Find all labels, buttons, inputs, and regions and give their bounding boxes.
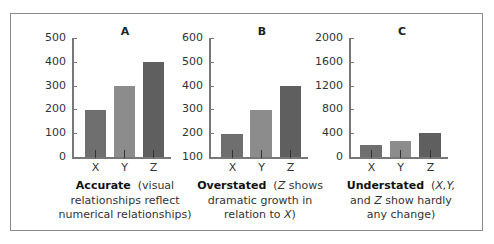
chart-caption: Understated (X,Y, and Z show hardly any … [326,179,476,223]
y-tick-label: 600 [163,32,203,44]
y-tick-label: 100 [163,151,203,163]
caption-bold: Overstated [197,179,266,192]
caption-italic: X [284,208,292,221]
y-tick-label: 300 [163,103,203,115]
caption-text: any change) [326,208,476,223]
y-tick-label: 100 [26,127,66,139]
y-tick-label: 500 [163,56,203,68]
caption-text: (visual [138,179,174,192]
bar-y [114,86,135,157]
caption-text: shows [285,179,323,192]
caption-text: relation to X) [185,208,335,223]
y-tick-label: 0 [303,151,343,163]
x-tick [124,150,125,158]
y-tick [72,86,77,87]
x-tick-label: Y [390,161,411,174]
chart-caption: Overstated (Z shows dramatic growth in r… [185,179,335,223]
x-tick [371,150,372,158]
caption-text: numerical relationships) [50,208,200,223]
y-tick [72,109,77,110]
y-tick [72,133,77,134]
y-tick-label: 0 [26,151,66,163]
x-tick-label: Z [143,161,164,174]
y-tick-label: 400 [163,80,203,92]
x-tick [95,150,96,158]
caption-text: and [350,194,374,207]
y-tick [349,86,354,87]
caption-bold: Accurate [76,179,131,192]
caption-text: relationships reflect [50,194,200,209]
y-axis [349,38,351,158]
caption-text: ) [292,208,296,221]
y-tick [209,86,214,87]
y-tick-label: 200 [163,127,203,139]
x-axis [209,157,308,159]
caption-text: dramatic growth in [185,194,335,209]
y-tick [209,38,214,39]
x-tick [400,150,401,158]
x-tick-label: Y [251,161,272,174]
y-tick [72,62,77,63]
x-axis [349,157,448,159]
x-axis [72,157,171,159]
y-tick-label: 1200 [303,80,343,92]
x-tick-label: Z [420,161,441,174]
y-tick-label: 1600 [303,56,343,68]
y-axis [209,38,211,158]
y-tick [349,109,354,110]
caption-bold: Understated [347,179,424,192]
y-tick-label: 500 [26,32,66,44]
y-tick-label: 300 [26,80,66,92]
y-tick-label: 800 [303,103,343,115]
x-tick [430,150,431,158]
caption-italic: X,Y, [435,179,455,192]
y-tick-label: 2000 [303,32,343,44]
x-tick-label: Y [114,161,135,174]
y-tick-label: 400 [26,56,66,68]
chart-title: A [115,25,135,38]
caption-text: and Z show hardly [326,194,476,209]
y-tick [209,109,214,110]
caption-text: show hardly [382,194,452,207]
chart-title: B [252,25,272,38]
y-tick [349,38,354,39]
y-tick [72,38,77,39]
x-tick [232,150,233,158]
y-tick-label: 200 [26,103,66,115]
chart-caption: Accurate (visual relationships reflect n… [50,179,200,223]
x-tick-label: X [222,161,243,174]
x-tick [153,150,154,158]
chart-title: C [392,25,412,38]
y-tick [209,133,214,134]
bar-z [143,62,164,157]
x-tick [290,150,291,158]
y-tick [349,133,354,134]
caption-text: relation to [224,208,284,221]
y-tick [209,62,214,63]
x-tick-label: X [85,161,106,174]
caption-italic: Z [374,194,382,207]
y-tick-label: 400 [303,127,343,139]
x-tick-label: X [361,161,382,174]
y-axis [72,38,74,158]
y-tick [349,62,354,63]
bar-z [280,86,301,157]
x-tick-label: Z [280,161,301,174]
x-tick [261,150,262,158]
